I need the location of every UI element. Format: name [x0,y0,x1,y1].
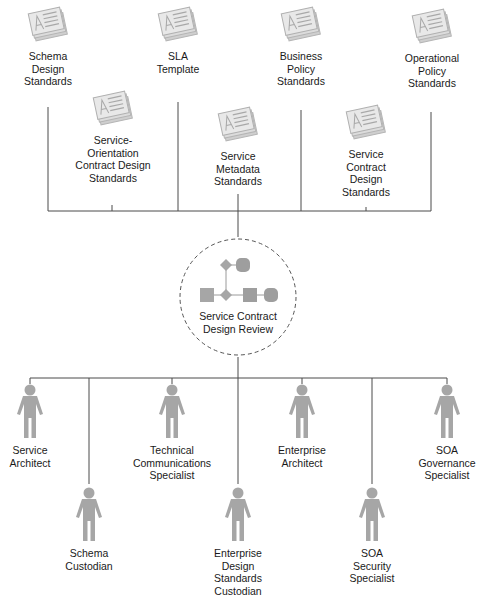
person-icon [157,384,187,440]
review-label: Service Contract Design Review [178,310,298,335]
document-stack-icon [215,104,261,146]
document-business-policy-standards: Business Policy Standards [261,4,341,88]
document-service-contract-design-standards: Service Contract Design Standards [326,102,406,198]
service-contract-design-review: Service Contract Design Review [178,237,298,357]
document-sla-template: SLA Template [138,4,218,75]
document-operational-policy-standards: Operational Policy Standards [391,6,473,90]
person-icon [74,487,104,543]
document-label: Operational Policy Standards [391,52,473,90]
diagram-canvas: Schema Design Standards SLA Template Bus [0,0,482,597]
document-stack-icon [25,4,71,46]
document-label: Service Contract Design Standards [326,148,406,198]
role-technical-communications-specialist: Technical Communications Specialist [130,384,214,482]
role-soa-governance-specialist: SOA Governance Specialist [412,384,482,482]
role-label: Schema Custodian [59,547,119,572]
role-soa-security-specialist: SOA Security Specialist [340,487,404,585]
role-enterprise-design-standards-custodian: Enterprise Design Standards Custodian [203,487,273,597]
person-icon [15,384,45,440]
role-service-architect: Service Architect [0,384,60,469]
document-stack-icon [90,88,136,130]
document-service-orientation-contract-design-standards: Service- Orientation Contract Design Sta… [72,88,154,184]
role-label: SOA Security Specialist [340,547,404,585]
document-stack-icon [343,102,389,144]
document-stack-icon [409,6,455,48]
document-label: SLA Template [138,50,218,75]
document-label: Service Metadata Standards [198,150,278,188]
document-schema-design-standards: Schema Design Standards [8,4,88,88]
document-label: Business Policy Standards [261,50,341,88]
role-label: SOA Governance Specialist [412,444,482,482]
document-label: Schema Design Standards [8,50,88,88]
document-label: Service- Orientation Contract Design Sta… [72,134,154,184]
role-label: Enterprise Architect [270,444,334,469]
role-schema-custodian: Schema Custodian [59,487,119,572]
person-icon [287,384,317,440]
document-service-metadata-standards: Service Metadata Standards [198,104,278,188]
person-icon [223,487,253,543]
person-icon [432,384,462,440]
role-label: Technical Communications Specialist [130,444,214,482]
role-label: Service Architect [0,444,60,469]
person-icon [357,487,387,543]
document-stack-icon [155,4,201,46]
role-enterprise-architect: Enterprise Architect [270,384,334,469]
process-flow-icon [178,237,298,357]
document-stack-icon [278,4,324,46]
role-label: Enterprise Design Standards Custodian [203,547,273,597]
